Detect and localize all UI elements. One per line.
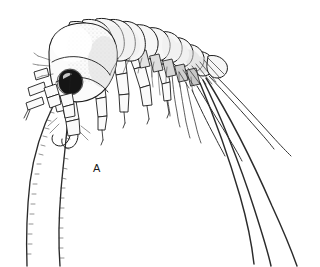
antenna-1-annulations xyxy=(27,112,54,254)
uropod-seta-3 xyxy=(200,83,254,264)
gnathopod-seta-b xyxy=(80,126,90,140)
antenna-1-flagellum xyxy=(27,104,54,266)
pereopod-4-dactyl xyxy=(147,106,149,124)
pereopod-3-dactyl xyxy=(123,112,125,128)
uropod-seta-2 xyxy=(203,80,271,266)
pereopod-5-carpus xyxy=(162,82,171,101)
gnathopod-1-claw xyxy=(52,135,70,146)
head-seta-a xyxy=(34,53,50,60)
figure-container: A xyxy=(0,0,320,267)
uropod-seta-8 xyxy=(186,82,201,143)
uropod-seta-4 xyxy=(213,73,291,156)
pereopod-4-carpus xyxy=(140,85,152,106)
pereopod-1-segment-c xyxy=(26,97,44,110)
pereopod-1-tip xyxy=(24,110,30,120)
uropod-seta-6 xyxy=(197,86,242,161)
gnathopod-seta-a xyxy=(48,118,59,133)
uropod-seta-1 xyxy=(206,78,297,266)
amphipod-illustration xyxy=(0,0,320,267)
pereopod-1-segment-a xyxy=(34,68,49,80)
pereopod-3-merus xyxy=(116,73,129,95)
pereopod-3-carpus xyxy=(119,94,129,112)
pereopod-2-dactyl xyxy=(101,130,103,145)
pereopod-2-merus xyxy=(96,97,107,117)
pereopod-1-segment-b xyxy=(28,82,46,96)
antenna-2-flagellum xyxy=(59,118,68,266)
pereopod-2-carpus xyxy=(98,116,107,130)
panel-label-a: A xyxy=(93,163,101,174)
gnathopod-1-carpus xyxy=(66,119,80,136)
head-seta-b xyxy=(33,64,50,66)
antenna-2-peduncle-b xyxy=(63,104,75,118)
pereopod-4-merus xyxy=(134,66,150,88)
antennae-group xyxy=(27,104,71,266)
